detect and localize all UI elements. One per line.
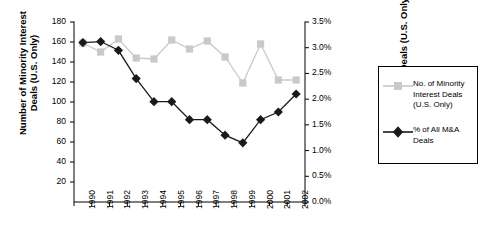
data-point-marker [275, 76, 282, 83]
data-point-marker [186, 45, 193, 52]
chart-legend: No. of Minority Interest Deals (U.S. Onl… [378, 66, 478, 164]
series-line [83, 42, 296, 143]
data-point-marker [221, 53, 228, 60]
legend-label: % of All M&A Deals [413, 125, 459, 146]
legend-marker-diamond [383, 125, 413, 139]
right-axis-tick-label: 2.5% [312, 67, 348, 77]
data-point-marker [97, 48, 104, 55]
data-point-marker [168, 36, 175, 43]
x-axis-tick-label: 1992 [122, 190, 132, 209]
right-axis-tick-label: 0.0% [312, 196, 348, 206]
legend-label: No. of Minority Interest Deals (U.S. Onl… [413, 79, 465, 111]
right-axis-tick-label: 2.0% [312, 93, 348, 103]
legend-item-minority-interest-deals: No. of Minority Interest Deals (U.S. Onl… [383, 79, 465, 111]
x-axis-tick-label: 2002 [300, 190, 310, 209]
data-point-marker [115, 35, 122, 42]
left-axis-tick-label: 120 [32, 76, 66, 86]
left-axis-tick-label: 60 [32, 136, 66, 146]
legend-marker-square [383, 79, 413, 93]
x-axis-tick-label: 1994 [158, 190, 168, 209]
left-axis-tick-label: 40 [32, 156, 66, 166]
data-point-marker [150, 55, 157, 62]
left-axis-tick-label: 180 [32, 16, 66, 26]
data-point-marker [133, 54, 140, 61]
x-axis-tick-label: 2001 [282, 190, 292, 209]
x-axis-tick-label: 1995 [176, 190, 186, 209]
left-axis-tick-label: 140 [32, 56, 66, 66]
x-axis-tick-label: 1993 [140, 190, 150, 209]
left-axis-tick-label: 100 [32, 96, 66, 106]
data-point-marker [204, 37, 211, 44]
x-axis-tick-label: 1997 [211, 190, 221, 209]
right-axis-tick-label: 1.5% [312, 119, 348, 129]
data-point-marker [114, 46, 123, 55]
data-point-marker [293, 76, 300, 83]
left-axis-tick-label: 20 [32, 176, 66, 186]
right-axis-tick-label: 1.0% [312, 145, 348, 155]
x-axis-tick-label: 1990 [87, 190, 97, 209]
x-axis-tick-label: 1998 [229, 190, 239, 209]
chart-container: Number of Minority Interest Deals (U.S. … [0, 0, 482, 245]
x-axis-tick-label: 2000 [265, 190, 275, 209]
data-point-marker [239, 79, 246, 86]
left-axis-tick-label: 160 [32, 36, 66, 46]
right-axis-tick-label: 3.0% [312, 42, 348, 52]
right-axis-tick-label: 0.5% [312, 170, 348, 180]
left-axis-tick-label: 80 [32, 116, 66, 126]
x-axis-tick-label: 1999 [247, 190, 257, 209]
legend-item-pct-all-ma-deals: % of All M&A Deals [383, 125, 459, 146]
data-point-marker [257, 40, 264, 47]
x-axis-tick-label: 1996 [194, 190, 204, 209]
right-axis-tick-label: 3.5% [312, 16, 348, 26]
data-point-marker [96, 37, 105, 46]
x-axis-tick-label: 1991 [105, 190, 115, 209]
